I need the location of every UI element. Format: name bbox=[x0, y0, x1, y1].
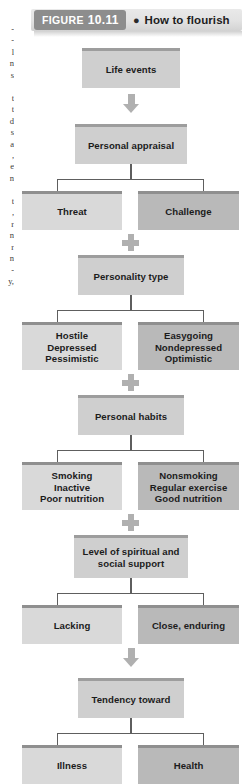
node-hostile-line-2: Depressed bbox=[45, 342, 98, 354]
node-challenge: Challenge bbox=[138, 191, 239, 230]
node-challenge-label: Challenge bbox=[165, 206, 211, 218]
node-illness-label: Illness bbox=[57, 760, 87, 772]
figure-header: FIGURE10.11 ● How to flourish bbox=[31, 9, 242, 31]
node-personality-type-label: Personality type bbox=[94, 271, 169, 283]
connector-drop-left bbox=[57, 450, 58, 463]
node-easygoing: Easygoing Nondepressed Optimistic bbox=[138, 322, 239, 370]
node-smoking-line-3: Poor nutrition bbox=[40, 493, 104, 505]
connector-drop-left bbox=[57, 593, 58, 606]
connector-drop-right bbox=[203, 450, 204, 463]
node-close-enduring: Close, enduring bbox=[138, 605, 239, 644]
connector-drop-right bbox=[203, 733, 204, 746]
node-easygoing-lines: Easygoing Nondepressed Optimistic bbox=[155, 330, 222, 365]
node-support-level-lines: Level of spiritual and social support bbox=[82, 546, 179, 569]
connector-stem bbox=[130, 164, 131, 179]
node-nonsmoking-line-1: Nonsmoking bbox=[150, 470, 228, 482]
figure-label: FIGURE bbox=[42, 14, 84, 26]
node-easygoing-line-1: Easygoing bbox=[155, 330, 222, 342]
node-threat: Threat bbox=[22, 191, 122, 230]
plus-connector-icon bbox=[122, 374, 139, 391]
connector-bar bbox=[57, 593, 204, 594]
bullet-dot-icon: ● bbox=[133, 15, 140, 26]
node-hostile-line-1: Hostile bbox=[45, 330, 98, 342]
node-smoking-line-2: Inactive bbox=[40, 482, 104, 494]
connector-stem bbox=[130, 718, 131, 733]
node-life-events: Life events bbox=[82, 48, 180, 88]
connector-bar bbox=[57, 733, 204, 734]
connector-drop-right bbox=[203, 593, 204, 606]
node-close-enduring-label: Close, enduring bbox=[152, 620, 225, 632]
node-personal-habits: Personal habits bbox=[78, 395, 184, 435]
node-personal-habits-label: Personal habits bbox=[95, 411, 167, 423]
figure-number: 10.11 bbox=[88, 13, 119, 27]
node-personal-appraisal: Personal appraisal bbox=[75, 124, 187, 164]
node-smoking-lines: Smoking Inactive Poor nutrition bbox=[40, 470, 104, 505]
node-smoking: Smoking Inactive Poor nutrition bbox=[22, 462, 122, 510]
flowchart: Life events Personal appraisal Threat Ch… bbox=[20, 42, 242, 763]
node-tendency-toward: Tendency toward bbox=[78, 678, 184, 718]
figure-title: How to flourish bbox=[145, 14, 230, 26]
node-health: Health bbox=[138, 745, 239, 784]
node-nonsmoking-line-2: Regular exercise bbox=[150, 482, 228, 494]
connector-drop-right bbox=[203, 310, 204, 323]
node-personal-appraisal-label: Personal appraisal bbox=[88, 140, 174, 152]
connector-bar bbox=[57, 450, 204, 451]
node-easygoing-line-3: Optimistic bbox=[155, 353, 222, 365]
connector-drop-right bbox=[203, 179, 204, 192]
node-hostile-lines: Hostile Depressed Pessimistic bbox=[45, 330, 98, 365]
node-tendency-toward-label: Tendency toward bbox=[92, 694, 171, 706]
connector-bar bbox=[57, 179, 204, 180]
connector-drop-left bbox=[57, 179, 58, 192]
node-threat-label: Threat bbox=[57, 206, 87, 218]
node-nonsmoking-lines: Nonsmoking Regular exercise Good nutriti… bbox=[150, 470, 228, 505]
connector-stem bbox=[130, 578, 131, 593]
node-support-level: Level of spiritual and social support bbox=[74, 535, 188, 578]
node-lacking: Lacking bbox=[22, 605, 122, 644]
node-nonsmoking-line-3: Good nutrition bbox=[150, 493, 228, 505]
node-lacking-label: Lacking bbox=[54, 620, 91, 632]
node-personality-type: Personality type bbox=[78, 255, 184, 295]
connector-bar bbox=[57, 310, 204, 311]
node-health-label: Health bbox=[174, 760, 204, 772]
plus-connector-icon bbox=[122, 234, 139, 251]
node-life-events-label: Life events bbox=[106, 64, 157, 76]
node-support-level-line-2: social support bbox=[82, 558, 179, 570]
connector-drop-left bbox=[57, 733, 58, 746]
plus-connector-icon bbox=[122, 514, 139, 531]
node-smoking-line-1: Smoking bbox=[40, 470, 104, 482]
node-hostile: Hostile Depressed Pessimistic bbox=[22, 322, 122, 370]
node-nonsmoking: Nonsmoking Regular exercise Good nutriti… bbox=[138, 462, 239, 510]
node-easygoing-line-2: Nondepressed bbox=[155, 342, 222, 354]
connector-stem bbox=[130, 295, 131, 310]
adjacent-column-text-fragment: - - l n s t t d s a , e n t , r n r n - … bbox=[0, 24, 14, 724]
figure-number-badge: FIGURE10.11 bbox=[34, 10, 126, 30]
connector-stem bbox=[130, 435, 131, 450]
connector-drop-left bbox=[57, 310, 58, 323]
node-support-level-line-1: Level of spiritual and bbox=[82, 546, 179, 558]
node-illness: Illness bbox=[22, 745, 122, 784]
figure-header-shadow bbox=[34, 31, 242, 37]
node-hostile-line-3: Pessimistic bbox=[45, 353, 98, 365]
